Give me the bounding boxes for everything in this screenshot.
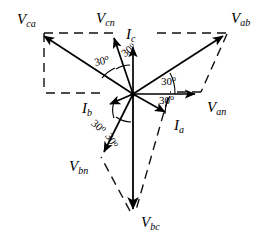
label-van: Van	[207, 99, 227, 117]
label-van-sub: an	[216, 106, 226, 117]
label-vca-main: V	[17, 11, 26, 27]
label-vcn-main: V	[96, 10, 105, 26]
label-vbc-sub: bc	[150, 221, 160, 232]
angle-label-van-vab-value: 30	[161, 75, 172, 87]
label-ib-sub: b	[87, 107, 92, 118]
label-vcn-sub: cn	[105, 17, 115, 28]
angle-label-van-ia-deg: o	[170, 93, 174, 102]
label-vca-sub: ca	[26, 18, 36, 29]
label-van-main: V	[207, 99, 216, 115]
angle-label-van-vab-deg: o	[172, 74, 176, 83]
label-vab-main: V	[231, 10, 240, 26]
label-vab-sub: ab	[240, 17, 250, 28]
label-vbc-main: V	[141, 214, 150, 230]
arc-ib-vbn	[113, 102, 114, 118]
phasor-vab	[133, 36, 223, 94]
dash-van-to-vbc	[136, 98, 168, 210]
phasor-vca	[44, 36, 133, 94]
label-vbn: Vbn	[69, 158, 89, 176]
angle-label-van-vab: 30o	[161, 75, 176, 87]
arc-vbn-vbc	[116, 117, 131, 122]
label-ia-sub: a	[179, 124, 184, 135]
label-vab: Vab	[231, 10, 251, 28]
label-vca: Vca	[17, 11, 36, 29]
label-vbc: Vbc	[141, 214, 160, 232]
phasor-vectors	[44, 36, 223, 209]
label-vcn: Vcn	[96, 10, 115, 28]
construction-lines	[44, 33, 227, 211]
phasor-diagram: Vca Vcn Ic Vab Van Ia Ib Vbn Vbc 30o 30o…	[0, 0, 271, 245]
arc-vca-vcn	[102, 68, 115, 78]
label-ia: Ia	[174, 117, 184, 135]
label-vbn-sub: bn	[78, 165, 88, 176]
angle-label-van-ia: 30o	[159, 94, 174, 106]
origin-point	[130, 91, 135, 96]
label-ib: Ib	[82, 100, 92, 118]
dash-vbc-to-vbn	[101, 157, 130, 211]
label-vbn-main: V	[69, 158, 78, 174]
angle-label-van-ia-value: 30	[159, 94, 170, 106]
